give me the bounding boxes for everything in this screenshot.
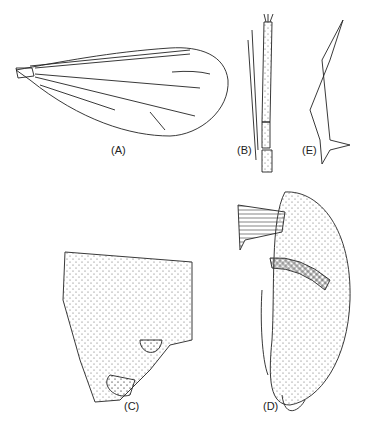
spine-drawing <box>310 20 350 164</box>
panel-label-b: (B) <box>237 145 252 156</box>
wing-drawing <box>16 48 228 136</box>
panel-label-e: (E) <box>302 145 317 156</box>
genitalia-detail-drawing <box>238 192 350 411</box>
panel-label-d: (D) <box>263 401 278 412</box>
panel-label-a: (A) <box>111 145 126 156</box>
palp-drawing <box>248 14 273 172</box>
figure-drawing <box>0 0 365 426</box>
figure-canvas: (A) (B) (C) (D) (E) <box>0 0 365 426</box>
panel-label-c: (C) <box>124 401 139 412</box>
genitalia-lateral-drawing <box>63 252 192 402</box>
